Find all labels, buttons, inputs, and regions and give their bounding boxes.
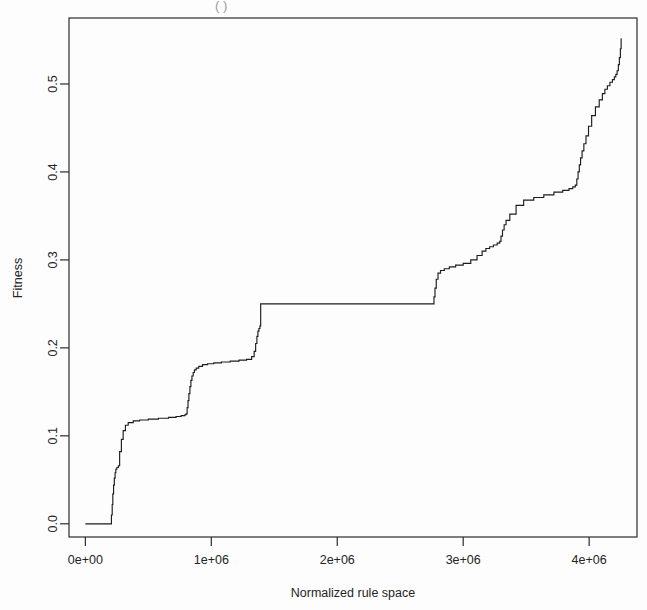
- y-tick-label: 0.4: [46, 163, 60, 180]
- chart-background: [0, 0, 647, 610]
- header-fragment-text: ( ): [215, 0, 227, 13]
- x-axis-title: Normalized rule space: [291, 586, 415, 600]
- x-tick-label: 0e+00: [68, 553, 103, 567]
- x-tick-label: 1e+06: [194, 553, 229, 567]
- y-tick-label: 0.2: [46, 339, 60, 356]
- y-tick-label: 0.3: [46, 251, 60, 268]
- x-tick-label: 4e+06: [572, 553, 607, 567]
- y-tick-label: 0.5: [46, 75, 60, 92]
- x-tick-label: 2e+06: [320, 553, 355, 567]
- y-tick-label: 0.0: [46, 515, 60, 532]
- chart-canvas: ( ) 0e+001e+062e+063e+064e+06 0.00.10.20…: [0, 0, 647, 610]
- y-tick-label: 0.1: [46, 427, 60, 444]
- y-axis-title: Fitness: [11, 258, 25, 298]
- x-tick-label: 3e+06: [446, 553, 481, 567]
- figure-panel: ( ) 0e+001e+062e+063e+064e+06 0.00.10.20…: [0, 0, 647, 610]
